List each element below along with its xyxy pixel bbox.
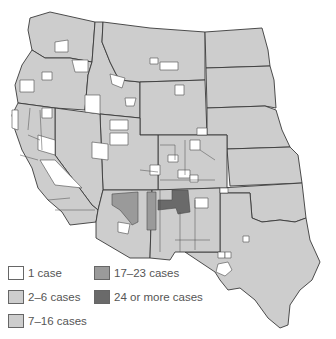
choropleth-map xyxy=(0,0,336,339)
state-kansas xyxy=(227,147,302,186)
state-wyoming xyxy=(140,80,207,135)
state-montana xyxy=(102,22,205,82)
state-north-dakota xyxy=(205,28,270,68)
county-17-23 xyxy=(147,192,156,230)
state-south-dakota xyxy=(206,66,276,108)
